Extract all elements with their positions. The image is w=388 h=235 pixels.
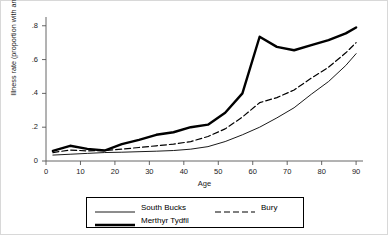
x-tick-label: 90	[346, 167, 366, 176]
series-line-merthyr-tydfil	[53, 27, 356, 150]
y-tick-label: .2	[20, 122, 38, 131]
chart-figure: Illness rate (proportion with an illness…	[0, 0, 388, 235]
x-tick-label: 0	[36, 167, 56, 176]
chart-legend: South BucksBuryMerthyr Tydfil	[86, 197, 304, 228]
legend-entry[interactable]: Bury	[215, 202, 277, 214]
x-tick-label: 70	[277, 167, 297, 176]
x-tick-label: 20	[105, 167, 125, 176]
x-tick-label: 50	[208, 167, 228, 176]
axes-layer	[42, 17, 363, 165]
legend-swatch-dashed	[215, 203, 255, 213]
y-tick-label: 0	[20, 156, 38, 165]
legend-label: Bury	[261, 202, 277, 214]
legend-swatch-solid-thin	[95, 203, 135, 213]
legend-label: South Bucks	[141, 202, 186, 214]
y-tick-label: .6	[20, 55, 38, 64]
x-tick-label: 10	[70, 167, 90, 176]
x-axis-title: Age	[175, 179, 235, 188]
y-tick-label: .4	[20, 88, 38, 97]
legend-entry[interactable]: South Bucks	[95, 202, 186, 214]
x-tick-label: 60	[243, 167, 263, 176]
series-line-bury	[53, 43, 356, 153]
series-layer	[53, 27, 356, 155]
legend-entry[interactable]: Merthyr Tydfil	[95, 215, 189, 227]
series-line-south-bucks	[53, 54, 356, 155]
y-tick-label: .8	[20, 21, 38, 30]
legend-label: Merthyr Tydfil	[141, 215, 189, 227]
legend-swatch-solid-thick	[95, 216, 135, 226]
x-tick-label: 40	[174, 167, 194, 176]
x-tick-label: 80	[312, 167, 332, 176]
x-tick-label: 30	[139, 167, 159, 176]
